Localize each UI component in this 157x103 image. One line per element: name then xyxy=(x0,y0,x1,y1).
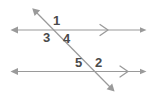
lower-line-right-arrowhead xyxy=(140,69,147,75)
upper-parallel-line-group xyxy=(11,25,147,36)
angle-label-3: 3 xyxy=(43,31,50,44)
geometry-diagram-svg xyxy=(0,0,157,103)
lower-line-left-arrowhead xyxy=(11,68,19,75)
upper-line-right-arrowhead xyxy=(140,27,147,33)
angle-label-1: 1 xyxy=(53,14,60,27)
angle-label-5: 5 xyxy=(75,56,82,69)
angle-label-4: 4 xyxy=(63,32,70,45)
transversal-line-group xyxy=(32,8,114,91)
geometry-figure: 1 3 4 5 2 xyxy=(0,0,157,103)
transversal-line xyxy=(36,12,112,89)
upper-line-left-arrowhead xyxy=(11,27,19,34)
angle-label-2: 2 xyxy=(95,56,102,69)
